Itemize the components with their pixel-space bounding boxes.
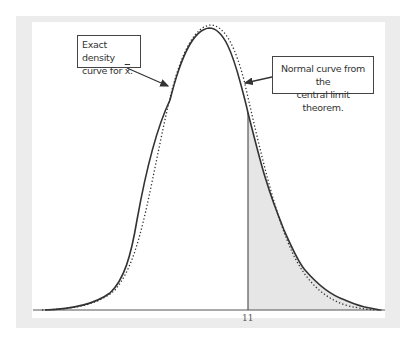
arrow-normal-curve bbox=[245, 77, 272, 83]
chart-svg bbox=[0, 0, 416, 345]
annotation-line-1: Normal curve from the bbox=[277, 62, 369, 88]
annotation-exact-density: Exact density curve for x. bbox=[77, 35, 141, 68]
annotation-line-2: central limit theorem. bbox=[277, 88, 369, 114]
annotation-line-2: curve for x. bbox=[82, 64, 136, 77]
annotation-normal-curve: Normal curve from the central limit theo… bbox=[272, 56, 374, 94]
x-tick-label: 11 bbox=[242, 313, 253, 323]
annotation-line-1: Exact density bbox=[82, 38, 136, 64]
